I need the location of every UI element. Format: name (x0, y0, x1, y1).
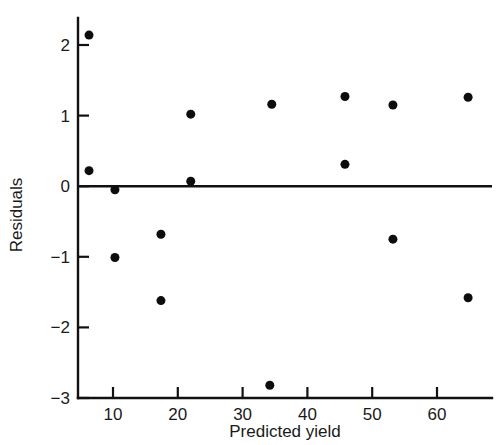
y-axis-title: Residuals (7, 178, 26, 253)
y-tick-label: 2 (61, 36, 70, 55)
data-point (110, 253, 119, 262)
x-tick-label: 20 (168, 405, 187, 424)
data-point (464, 293, 473, 302)
data-point (186, 110, 195, 119)
data-point (156, 296, 165, 305)
y-tick-label: −3 (51, 389, 70, 408)
y-tick-label: −2 (51, 318, 70, 337)
data-point (340, 160, 349, 169)
x-tick-label: 50 (363, 405, 382, 424)
y-tick-label: −1 (51, 248, 70, 267)
x-axis-ticks: 102030405060 (104, 387, 447, 424)
data-point (265, 381, 274, 390)
x-axis-title: Predicted yield (229, 422, 341, 441)
data-point (85, 31, 94, 40)
residual-plot-figure: 210−1−2−3 102030405060 Predicted yield R… (0, 0, 503, 445)
x-tick-label: 60 (428, 405, 447, 424)
axes-group (78, 18, 492, 398)
data-point (85, 166, 94, 175)
data-points-group (85, 31, 473, 390)
data-point (388, 235, 397, 244)
y-tick-label: 1 (61, 107, 70, 126)
y-axis-ticks: 210−1−2−3 (51, 36, 89, 408)
data-point (186, 177, 195, 186)
scatter-plot-canvas: 210−1−2−3 102030405060 Predicted yield R… (0, 0, 503, 445)
data-point (340, 92, 349, 101)
data-point (464, 93, 473, 102)
data-point (110, 185, 119, 194)
x-tick-label: 10 (104, 405, 123, 424)
data-point (267, 100, 276, 109)
y-tick-label: 0 (61, 177, 70, 196)
data-point (156, 230, 165, 239)
data-point (388, 101, 397, 110)
